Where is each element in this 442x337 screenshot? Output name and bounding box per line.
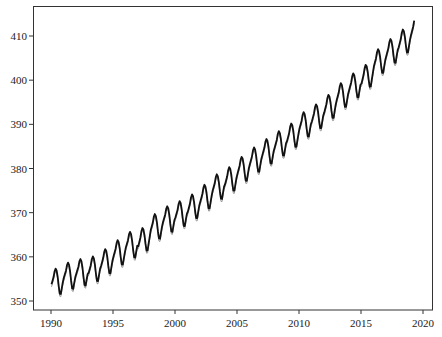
x-axis: 1990199520002005201020152020: [40, 310, 435, 329]
co2-line-chart: 1990199520002005201020152020 35036037038…: [0, 0, 442, 337]
x-tick-label: 2010: [288, 317, 311, 329]
y-tick-label: 410: [11, 30, 28, 42]
y-axis: 350360370380390400410: [11, 30, 34, 307]
x-tick-label: 2020: [412, 317, 435, 329]
y-tick-label: 400: [11, 74, 28, 86]
x-tick-label: 1990: [40, 317, 63, 329]
plot-background: [33, 6, 433, 310]
y-tick-label: 360: [11, 251, 28, 263]
y-tick-label: 380: [11, 163, 28, 175]
y-tick-label: 350: [11, 295, 28, 307]
x-tick-label: 2005: [226, 317, 249, 329]
y-tick-label: 370: [11, 207, 28, 219]
x-tick-label: 2015: [350, 317, 373, 329]
x-tick-label: 1995: [102, 317, 125, 329]
x-tick-label: 2000: [164, 317, 187, 329]
y-tick-label: 390: [11, 118, 28, 130]
